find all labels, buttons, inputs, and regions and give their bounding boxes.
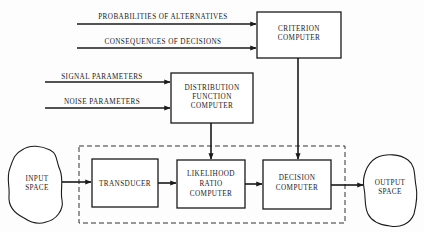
distribution-line-2: FUNCTION [192, 93, 232, 101]
decision-line-2: COMPUTER [276, 184, 318, 192]
consequences-input: CONSEQUENCES OF DECISIONS [77, 38, 256, 48]
criterion-computer-block: CRITERION COMPUTER [257, 12, 341, 58]
input-space-line-2: SPACE [25, 184, 49, 192]
decision-computer-block: DECISION COMPUTER [263, 160, 331, 209]
distribution-computer-block: DISTRIBUTION FUNCTION COMPUTER [171, 73, 253, 123]
decision-system-diagram: PROBABILITIES OF ALTERNATIVES CONSEQUENC… [0, 0, 424, 232]
noise-input: NOISE PARAMETERS [45, 98, 170, 108]
probabilities-label: PROBABILITIES OF ALTERNATIVES [98, 13, 228, 21]
input-space-line-1: INPUT [25, 175, 48, 183]
likelihood-line-2: RATIO [199, 180, 222, 188]
signal-label: SIGNAL PARAMETERS [61, 73, 143, 81]
input-space-cloud: INPUT SPACE [8, 146, 62, 223]
output-space-line-2: SPACE [378, 188, 402, 196]
criterion-line-2: COMPUTER [278, 34, 320, 42]
transducer-label: TRANSDUCER [99, 180, 151, 188]
likelihood-ratio-computer-block: LIKELIHOOD RATIO COMPUTER [177, 160, 245, 208]
likelihood-line-3: COMPUTER [190, 190, 232, 198]
noise-label: NOISE PARAMETERS [64, 98, 140, 106]
consequences-label: CONSEQUENCES OF DECISIONS [104, 38, 221, 46]
decision-line-1: DECISION [279, 174, 316, 182]
distribution-line-3: COMPUTER [191, 102, 233, 110]
probabilities-input: PROBABILITIES OF ALTERNATIVES [77, 13, 256, 24]
output-space-cloud: OUTPUT SPACE [364, 155, 417, 227]
distribution-line-1: DISTRIBUTION [184, 84, 240, 92]
criterion-line-1: CRITERION [278, 25, 320, 33]
transducer-block: TRANSDUCER [92, 159, 158, 207]
output-space-line-1: OUTPUT [375, 179, 406, 187]
likelihood-line-1: LIKELIHOOD [187, 170, 235, 178]
signal-input: SIGNAL PARAMETERS [45, 73, 170, 82]
